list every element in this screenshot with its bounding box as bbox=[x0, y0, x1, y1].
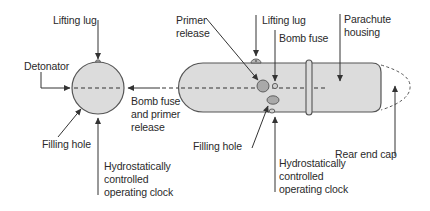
parachute-housing-label-line-2: housing bbox=[344, 26, 380, 39]
bomb-fuse-label: Bomb fuse bbox=[279, 32, 328, 45]
sphere-clock-label-line-1: Hydrostatically bbox=[104, 160, 171, 173]
primer-release-component bbox=[257, 80, 269, 92]
sphere-detonator-arrow bbox=[41, 72, 70, 88]
rear-end-cap-label: Rear end cap bbox=[335, 148, 397, 161]
connector-label-line-1: Bomb fuse bbox=[131, 95, 180, 108]
parachute-housing-label-line-1: Parachute bbox=[344, 13, 391, 26]
filling-hole-component bbox=[267, 96, 279, 104]
sphere-lifting-lug bbox=[96, 60, 101, 62]
body-lifting-lug-label: Lifting lug bbox=[262, 14, 306, 27]
rear-end-cap bbox=[381, 65, 410, 110]
body-band bbox=[306, 60, 312, 115]
detonator-label: Detonator bbox=[24, 60, 69, 73]
sphere-lifting-lug-label: Lifting lug bbox=[53, 14, 97, 27]
bomb-diagram: Lifting lug Detonator Filling hole Hydro… bbox=[0, 0, 430, 211]
primer-release-label-line-1: Primer bbox=[176, 14, 206, 27]
sphere-clock-label-line-3: operating clock bbox=[104, 186, 173, 199]
body-clock-label-line-2: controlled bbox=[279, 170, 324, 183]
connector-label-line-3: release bbox=[131, 121, 165, 134]
clock-component bbox=[269, 109, 275, 113]
sphere-clock-label-line-2: controlled bbox=[104, 173, 149, 186]
bomb-fuse-component bbox=[272, 83, 277, 88]
sphere-body bbox=[72, 62, 124, 114]
connector-label-line-2: and primer bbox=[131, 108, 180, 121]
body-clock-label-line-3: operating clock bbox=[279, 183, 348, 196]
bomb-body bbox=[179, 63, 381, 112]
body-filling-hole-label: Filling hole bbox=[193, 140, 242, 153]
sphere-filling-hole-arrow bbox=[58, 109, 81, 137]
primer-release-label-line-2: release bbox=[176, 27, 210, 40]
sphere-filling-hole-label: Filling hole bbox=[42, 138, 91, 151]
